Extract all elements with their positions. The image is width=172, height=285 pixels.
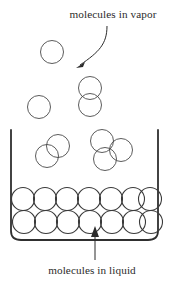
liquid-molecule — [35, 211, 58, 234]
vapor-molecule — [41, 41, 64, 64]
liquid-molecule — [56, 188, 79, 211]
diagram-canvas: molecules in vapor molecules in liquid — [0, 0, 172, 285]
vapor-molecule — [94, 148, 117, 171]
vapor-arrow-head — [76, 62, 85, 68]
vapor-callout-arrow — [76, 26, 107, 68]
liquid-molecule — [12, 188, 35, 211]
liquid-molecule — [79, 211, 102, 234]
liquid-molecule — [100, 188, 123, 211]
liquid-molecule — [140, 211, 163, 234]
container-vessel — [11, 130, 158, 240]
vapor-molecule-group — [28, 41, 133, 171]
liquid-molecule — [57, 211, 80, 234]
vapor-molecule — [110, 139, 133, 162]
vapor-label: molecules in vapor — [70, 8, 157, 20]
liquid-arrow-head — [91, 226, 99, 237]
vapor-liquid-diagram: molecules in vapor molecules in liquid — [0, 0, 172, 285]
liquid-molecule — [101, 211, 124, 234]
liquid-molecule-group — [12, 188, 163, 234]
liquid-molecule — [34, 188, 57, 211]
vapor-molecule — [79, 94, 102, 117]
liquid-molecule — [13, 211, 36, 234]
vapor-arrow-line — [80, 26, 107, 65]
vapor-molecule — [79, 77, 102, 100]
vapor-molecule — [28, 96, 51, 119]
liquid-label: molecules in liquid — [48, 264, 136, 276]
liquid-molecule — [78, 188, 101, 211]
